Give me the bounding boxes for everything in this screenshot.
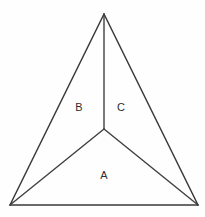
region-label-c: C	[117, 101, 125, 113]
region-label-a: A	[100, 169, 108, 181]
region-label-b: B	[75, 101, 83, 113]
diagram-canvas: B C A	[0, 0, 205, 217]
triangle-diagram: B C A	[0, 0, 205, 217]
